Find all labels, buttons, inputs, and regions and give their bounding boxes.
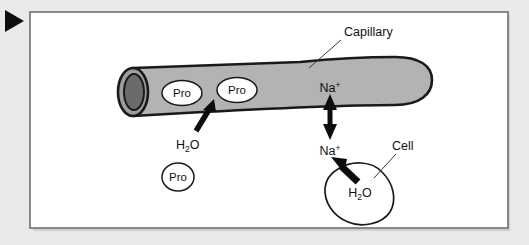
capillary-callout-label: Capillary (344, 25, 393, 39)
protein-1-label: Pro (173, 87, 191, 99)
figure-stage: Pro Pro Pro H2O Na+ (0, 0, 529, 245)
panel-frame (30, 12, 508, 228)
cell-callout-label: Cell (392, 139, 414, 153)
protein-2: Pro (217, 78, 257, 103)
protein-3: Pro (162, 163, 194, 191)
protein-1: Pro (162, 81, 202, 106)
capillary-lumen-opening (124, 74, 144, 110)
protein-2-label: Pro (228, 84, 246, 96)
protein-3-label: Pro (169, 171, 187, 183)
